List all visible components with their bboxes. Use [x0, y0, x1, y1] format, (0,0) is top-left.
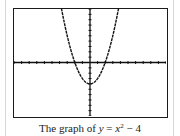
- caption-rest: − 4: [124, 122, 141, 134]
- caption-equals: =: [104, 122, 116, 134]
- figure-caption: The graph of y = x2 − 4: [0, 119, 180, 135]
- calculator-screen: [13, 8, 168, 118]
- parabola-plot: [14, 9, 166, 116]
- caption-prefix: The graph of: [39, 122, 99, 134]
